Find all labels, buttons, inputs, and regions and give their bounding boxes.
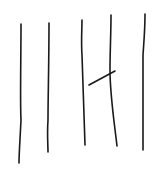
vertical-stroke-4 [110,15,117,146]
vertical-stroke-1 [19,24,21,163]
sketch-canvas [0,0,159,173]
vertical-stroke-2 [48,23,49,152]
sketch-svg [0,0,159,173]
vertical-stroke-3 [82,20,85,145]
vertical-stroke-5 [143,14,145,150]
